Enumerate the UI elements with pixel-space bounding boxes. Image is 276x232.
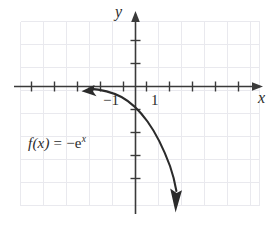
- graph-figure: y x −1 1 f(x) = −ex: [0, 0, 276, 232]
- plot-canvas: [0, 0, 276, 232]
- function-equation-label: f(x) = −ex: [28, 136, 86, 151]
- x-tick-label-one: 1: [151, 93, 159, 108]
- function-equals-sign: = −e: [50, 135, 82, 151]
- function-curve: [82, 85, 183, 213]
- y-axis-arrowhead: [131, 11, 140, 22]
- curve-down-arrowhead: [170, 189, 182, 213]
- y-axis-label: y: [115, 4, 122, 20]
- function-argument: (x): [32, 135, 49, 151]
- function-exponent: x: [82, 134, 86, 144]
- x-axis-label: x: [258, 90, 265, 106]
- x-tick-label-negative-one: −1: [103, 93, 119, 108]
